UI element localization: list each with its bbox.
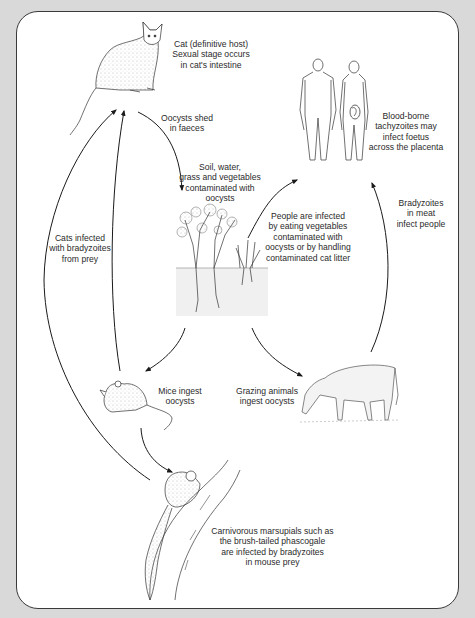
marsupials-label: Carnivorous marsupials such as the brush… [205,526,340,568]
cow-illustration [300,365,400,422]
soil-label: Soil, water, grass and vegetables contam… [174,162,266,204]
grazing-label: Grazing animals ingest oocysts [227,386,307,407]
cats-infected-label: Cats infected with bradyzoites from prey [40,233,120,264]
oocysts-shed-label: Oocysts shed in faeces [152,113,222,134]
bradyzoites-meat-label: Bradyzoites in meat infect people [388,198,454,229]
arrow-phascogale-to-cat [44,110,150,480]
humans-label: Blood-borne tachyzoites may infect foetu… [365,111,447,153]
people-infected-label: People are infected by eating vegetables… [258,211,358,263]
humans-illustration [300,59,368,160]
arrow-soil-to-mouse [146,328,185,371]
plants-soil-illustration [176,204,268,316]
arrow-cow-to-humans [371,183,388,352]
cat-label: Cat (definitive host) Sexual stage occur… [166,39,256,70]
arrow-soil-to-cow [252,328,302,376]
arrow-mouse-to-phascogale [141,428,172,472]
mice-label: Mice ingest oocysts [152,386,208,407]
